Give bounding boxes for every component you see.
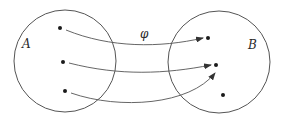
set-a-point-1: [58, 26, 62, 30]
set-a-point-2: [61, 60, 65, 64]
set-a-circle: [14, 10, 116, 112]
set-b-point-2: [214, 63, 218, 67]
set-a-label: A: [21, 37, 31, 51]
arrow-a2-to-b2: [69, 63, 211, 72]
set-b-circle: [168, 11, 270, 113]
set-b-point-1: [206, 36, 210, 40]
arrow-a3-to-b2: [71, 73, 215, 103]
set-b-label: B: [247, 38, 257, 52]
mapping-diagram: A B φ: [0, 0, 287, 124]
set-b-point-3: [221, 93, 225, 97]
arrow-a1-to-b1: [66, 30, 203, 45]
mapping-label: φ: [140, 27, 149, 41]
set-a-point-3: [63, 89, 67, 93]
